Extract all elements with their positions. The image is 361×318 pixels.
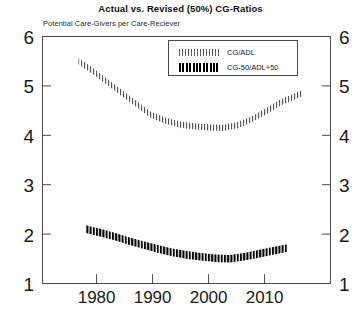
y-axis-left-ticks (43, 37, 52, 284)
y-right-tick-5: 5 (339, 76, 350, 97)
legend-label-cg-adl: CG/ADL (227, 48, 255, 57)
x-tick-1980: 1980 (78, 288, 116, 307)
y-right-tick-4: 4 (339, 126, 350, 147)
x-tick-1990: 1990 (134, 288, 172, 307)
y-right-tick-6: 6 (339, 27, 350, 48)
y-right-tick-2: 2 (339, 225, 350, 246)
chart-figure: Actual vs. Revised (50%) CG-Ratios Poten… (0, 0, 361, 318)
legend-entry-cg-adl: CG/ADL (169, 45, 297, 59)
y-left-tick-2: 2 (23, 225, 34, 246)
x-axis-ticks (97, 274, 265, 284)
y-left-tick-5: 5 (23, 76, 34, 97)
legend-label-cg50-adl50: CG-50/ADL+50 (227, 63, 279, 72)
y-axis-left-labels: 6 5 4 3 2 1 (23, 27, 34, 295)
y-left-tick-4: 4 (23, 126, 34, 147)
y-right-tick-1: 1 (339, 274, 350, 295)
y-left-tick-6: 6 (23, 27, 34, 48)
y-left-tick-3: 3 (23, 175, 34, 196)
x-tick-2000: 2000 (190, 288, 228, 307)
legend-entry-cg50-adl50: CG-50/ADL+50 (169, 60, 297, 74)
y-axis-right-ticks (322, 37, 331, 284)
x-tick-2010: 2010 (246, 288, 284, 307)
y-left-tick-1: 1 (23, 274, 34, 295)
y-axis-right-labels: 6 5 4 3 2 1 (339, 27, 350, 295)
hatched-band-swatch-icon (179, 49, 219, 56)
chart-legend: CG/ADL CG-50/ADL+50 (168, 40, 298, 76)
y-right-tick-3: 3 (339, 175, 350, 196)
solid-band-swatch-icon (179, 63, 219, 72)
x-axis-labels: 1980 1990 2000 2010 (78, 288, 284, 307)
